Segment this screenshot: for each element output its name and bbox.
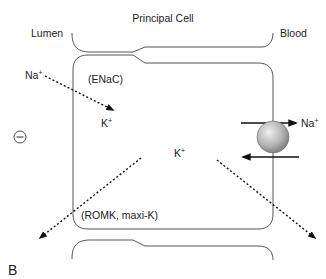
cell-title: Principal Cell xyxy=(132,12,193,24)
k-basolateral-exit-arrow xyxy=(217,160,315,238)
cell-membranes xyxy=(72,33,273,260)
pump-icon xyxy=(257,121,289,153)
enac-label: (ENaC) xyxy=(88,73,123,85)
na-k-pump xyxy=(241,121,299,157)
panel-label: B xyxy=(8,262,17,278)
k-apical-exit-arrow xyxy=(40,158,141,238)
negative-charge-icon xyxy=(14,131,26,143)
romk-label: (ROMK, maxi-K) xyxy=(81,209,158,221)
k-cell-label: K+ xyxy=(174,147,185,159)
na-lumen-label: Na+ xyxy=(25,69,43,81)
lumen-label: Lumen xyxy=(31,27,63,39)
na-blood-label: Na+ xyxy=(301,117,319,129)
principal-cell-diagram: Principal Cell Lumen Blood Na+ (ENaC) K+… xyxy=(0,0,326,279)
blood-label: Blood xyxy=(280,27,307,39)
k-apical-label: K+ xyxy=(101,117,112,129)
